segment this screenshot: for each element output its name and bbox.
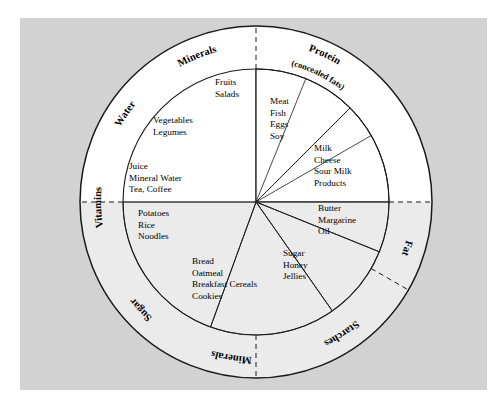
nutrition-wheel: FruitsSaladsVegetablesLegumesJuiceMinera… [0, 0, 504, 406]
sector-items-fruits: FruitsSalads [215, 77, 239, 99]
sector-items-sugars: SugarHoneyJellies [283, 248, 308, 281]
figure-canvas: FruitsSaladsVegetablesLegumesJuiceMinera… [0, 0, 504, 406]
nutrition-wheel-svg: FruitsSaladsVegetablesLegumesJuiceMinera… [0, 0, 504, 406]
